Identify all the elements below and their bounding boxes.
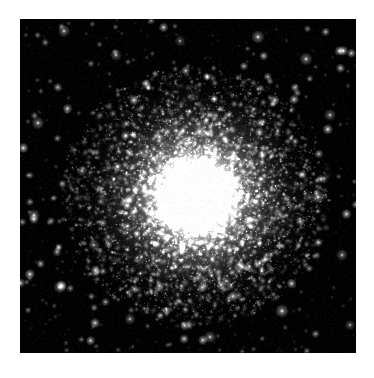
- page-root: [0, 0, 374, 378]
- sky-canvas: [20, 19, 356, 353]
- margin-right: [356, 0, 374, 378]
- caption: [0, 353, 374, 378]
- margin-top: [0, 0, 374, 19]
- margin-left: [0, 0, 20, 378]
- globular-cluster-image: [20, 19, 356, 353]
